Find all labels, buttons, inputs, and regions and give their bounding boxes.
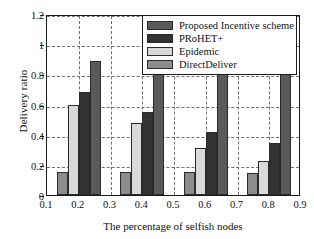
legend-swatch-icon: [147, 60, 173, 69]
legend: Proposed Incentive schemePRoHET+Epidemic…: [142, 15, 297, 75]
bar: [68, 105, 79, 196]
y-axis-tick-labels: 00.20.40.60.811.2: [0, 15, 44, 196]
bar: [280, 72, 291, 195]
y-axis-tick-label: 0.2: [2, 160, 44, 171]
bar: [195, 148, 206, 196]
bar: [120, 172, 131, 195]
bar: [90, 61, 101, 195]
legend-item-label: PRoHET+: [179, 33, 223, 44]
bar-chart: Delivery ratio 00.20.40.60.811.2 0.10.20…: [0, 0, 314, 239]
legend-item: Epidemic: [147, 45, 292, 58]
legend-swatch-icon: [147, 21, 173, 30]
legend-item-label: DirectDeliver: [179, 59, 237, 70]
y-axis-tick-label: 0.6: [2, 100, 44, 111]
legend-item: Proposed Incentive scheme: [147, 19, 292, 32]
bar: [217, 69, 228, 195]
legend-item-label: Proposed Incentive scheme: [179, 20, 294, 31]
gridline-vertical: [111, 16, 112, 195]
bar: [79, 92, 90, 195]
y-axis-tick-mark: [40, 166, 44, 167]
bar: [247, 173, 258, 195]
legend-item-label: Epidemic: [179, 46, 219, 57]
bar: [184, 172, 195, 195]
legend-item: PRoHET+: [147, 32, 292, 45]
y-axis-tick-mark: [40, 15, 44, 16]
y-axis-tick-mark: [40, 75, 44, 76]
y-axis-tick-label: 1.2: [2, 10, 44, 21]
legend-item: DirectDeliver: [147, 58, 292, 71]
legend-swatch-icon: [147, 47, 173, 56]
gridline-horizontal: [47, 76, 299, 77]
y-axis-tick-label: 1: [2, 40, 44, 51]
bar: [57, 172, 68, 195]
bar: [142, 112, 153, 195]
bar: [153, 68, 164, 195]
y-axis-tick-mark: [40, 196, 44, 197]
bar: [258, 161, 269, 195]
x-axis-tick-labels: 0.10.20.30.40.50.60.70.80.9: [46, 199, 300, 215]
y-axis-tick-mark: [40, 136, 44, 137]
y-axis-tick-label: 0.4: [2, 130, 44, 141]
bar: [269, 143, 280, 195]
y-axis-tick-mark: [40, 106, 44, 107]
bar: [131, 123, 142, 195]
x-axis-tick-label: 0.9: [280, 199, 314, 210]
bar: [206, 132, 217, 195]
y-axis-tick-mark: [40, 45, 44, 46]
y-axis-tick-label: 0.8: [2, 70, 44, 81]
legend-swatch-icon: [147, 34, 173, 43]
x-axis-title: The percentage of selfish nodes: [46, 220, 300, 232]
